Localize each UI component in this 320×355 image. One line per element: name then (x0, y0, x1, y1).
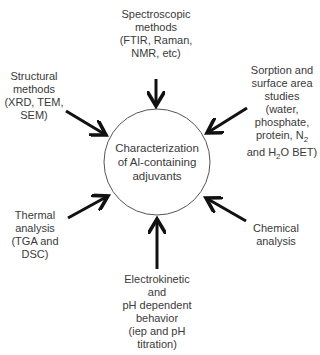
text: protein, N (256, 129, 304, 141)
subscript: 2 (304, 135, 308, 144)
node-line: (TGA and (5, 235, 65, 248)
node-line: (FTIR, Raman, (106, 34, 206, 47)
node-line: phosphate, (240, 116, 320, 129)
node-line: behavior (107, 312, 207, 325)
center-line: adjuvants (102, 169, 212, 183)
node-line: DSC) (5, 248, 65, 261)
node-line: titration) (107, 338, 207, 351)
node-electrokinetic: Electrokinetic and pH dependent behavior… (107, 273, 207, 351)
node-line: (water, (240, 103, 320, 116)
node-line: methods (0, 83, 68, 96)
node-line: pH dependent (107, 299, 207, 312)
node-line: and (107, 286, 207, 299)
node-line: analysis (5, 222, 65, 235)
node-line: methods (106, 21, 206, 34)
node-line: (XRD, TEM, (0, 96, 68, 109)
node-thermal: Thermal analysis (TGA and DSC) (5, 209, 65, 261)
node-line: Spectroscopic (106, 8, 206, 21)
node-line: analysis (248, 235, 304, 248)
center-line: Characterization (102, 141, 212, 155)
node-line: Thermal (5, 209, 65, 222)
node-line: Structural (0, 70, 68, 83)
node-sorption: Sorption and surface area studies (water… (240, 64, 320, 163)
node-spectroscopic: Spectroscopic methods (FTIR, Raman, NMR,… (106, 8, 206, 60)
node-line: SEM) (0, 109, 68, 122)
arrow-chemical (206, 198, 246, 221)
node-chemical: Chemical analysis (248, 222, 304, 248)
text: and H (247, 146, 276, 158)
node-line: surface area (240, 77, 320, 90)
arrow-structural (66, 111, 106, 135)
node-line: protein, N2 (240, 129, 320, 146)
center-label: Characterization of Al-containing adjuva… (102, 141, 212, 183)
center-line: of Al-containing (102, 155, 212, 169)
node-structural: Structural methods (XRD, TEM, SEM) (0, 70, 68, 122)
node-line: (iep and pH (107, 325, 207, 338)
arrow-thermal (68, 196, 108, 218)
node-line: Electrokinetic (107, 273, 207, 286)
node-line: Sorption and (240, 64, 320, 77)
node-line: studies (240, 90, 320, 103)
node-line: Chemical (248, 222, 304, 235)
node-line: and H2O BET) (240, 146, 320, 163)
text: O BET) (281, 146, 318, 158)
node-line: NMR, etc) (106, 47, 206, 60)
